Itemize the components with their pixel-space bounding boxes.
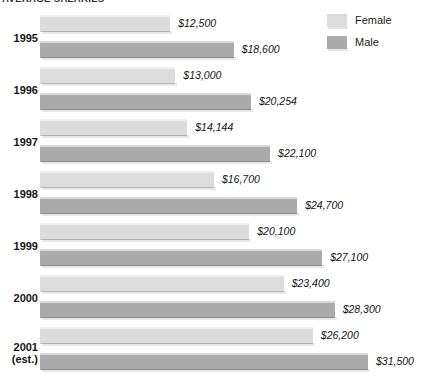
bar-value-female-1998: $16,700 (222, 172, 260, 187)
bar-row-female-1996: $13,000 (40, 67, 427, 84)
bar-row-female-2000: $23,400 (40, 275, 427, 292)
bar-value-male-1998: $24,700 (305, 198, 343, 213)
bar-value-female-1995: $12,500 (178, 16, 216, 31)
bar-male-2001[interactable] (40, 353, 368, 370)
bar-value-female-2000: $23,400 (292, 276, 330, 291)
bar-row-male-1999: $27,100 (40, 249, 427, 266)
bar-row-male-2001: $31,500 (40, 353, 427, 370)
bar-row-female-1995: $12,500 (40, 15, 427, 32)
year-label-text: 1998 (14, 188, 38, 200)
year-label-text: 1995 (14, 32, 38, 44)
year-label-text: 1996 (14, 84, 38, 96)
bar-value-male-2000: $28,300 (343, 302, 381, 317)
year-group-1997: 1997$14,144$22,100 (0, 118, 427, 170)
bar-row-male-1998: $24,700 (40, 197, 427, 214)
bar-male-1996[interactable] (40, 93, 251, 110)
bar-male-1997[interactable] (40, 145, 270, 162)
bar-value-female-2001: $26,200 (321, 328, 359, 343)
year-label-2000: 2000 (8, 292, 38, 304)
bar-value-male-1995: $18,600 (242, 42, 280, 57)
year-group-1995: 1995$12,500$18,600 (0, 14, 427, 66)
bar-value-male-2001: $31,500 (376, 354, 414, 369)
bar-row-female-1999: $20,100 (40, 223, 427, 240)
year-label-text: 2000 (14, 292, 38, 304)
year-label-text: 1997 (14, 136, 38, 148)
bar-row-male-1997: $22,100 (40, 145, 427, 162)
year-group-1996: 1996$13,000$20,254 (0, 66, 427, 118)
bar-value-male-1996: $20,254 (259, 94, 297, 109)
bar-female-1999[interactable] (40, 223, 249, 240)
bar-row-male-1995: $18,600 (40, 41, 427, 58)
year-label-1997: 1997 (8, 136, 38, 148)
bar-row-female-1997: $14,144 (40, 119, 427, 136)
year-label-1998: 1998 (8, 188, 38, 200)
bar-male-1999[interactable] (40, 249, 322, 266)
bar-row-female-1998: $16,700 (40, 171, 427, 188)
year-group-2001: 2001(est.)$26,200$31,500 (0, 326, 427, 378)
bar-value-male-1997: $22,100 (278, 146, 316, 161)
year-label-1995: 1995 (8, 32, 38, 44)
year-label-1996: 1996 (8, 84, 38, 96)
chart-title: AVERAGE SALARIES (2, 0, 105, 4)
bar-row-male-1996: $20,254 (40, 93, 427, 110)
bar-male-1995[interactable] (40, 41, 234, 58)
year-label-2001: 2001(est.) (8, 341, 38, 365)
year-label-note: (est.) (8, 353, 38, 365)
bar-value-male-1999: $27,100 (330, 250, 368, 265)
bar-female-2001[interactable] (40, 327, 313, 344)
year-label-text: 1999 (14, 240, 38, 252)
bar-value-female-1999: $20,100 (257, 224, 295, 239)
bar-male-1998[interactable] (40, 197, 297, 214)
salary-bar-chart: AVERAGE SALARIES Female Male 1995$12,500… (0, 0, 427, 379)
year-label-1999: 1999 (8, 240, 38, 252)
bar-value-female-1996: $13,000 (183, 68, 221, 83)
bar-female-1995[interactable] (40, 15, 170, 32)
bar-value-female-1997: $14,144 (195, 120, 233, 135)
bar-female-1997[interactable] (40, 119, 187, 136)
year-group-1999: 1999$20,100$27,100 (0, 222, 427, 274)
bar-female-2000[interactable] (40, 275, 284, 292)
bar-row-male-2000: $28,300 (40, 301, 427, 318)
bar-male-2000[interactable] (40, 301, 335, 318)
bar-female-1996[interactable] (40, 67, 175, 84)
year-group-2000: 2000$23,400$28,300 (0, 274, 427, 326)
bar-row-female-2001: $26,200 (40, 327, 427, 344)
year-label-text: 2001 (14, 341, 38, 353)
year-group-1998: 1998$16,700$24,700 (0, 170, 427, 222)
bar-female-1998[interactable] (40, 171, 214, 188)
plot-area: 1995$12,500$18,6001996$13,000$20,2541997… (0, 14, 427, 379)
